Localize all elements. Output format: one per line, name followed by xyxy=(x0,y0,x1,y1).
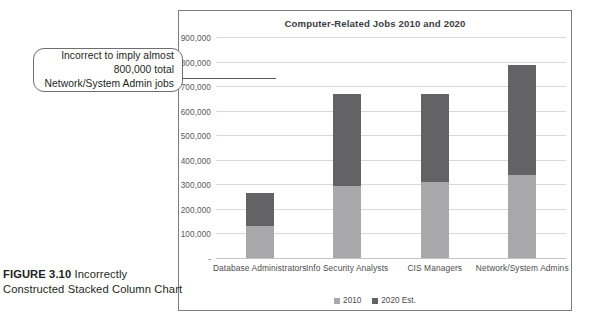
bar-segment-2010 xyxy=(421,182,449,258)
callout-text: Incorrect to imply almost 800,000 total … xyxy=(40,49,174,91)
plot-area: -100,000200,000300,000400,000500,000600,… xyxy=(216,37,566,258)
y-axis-tick-label: 400,000 xyxy=(181,156,211,165)
legend-swatch-icon xyxy=(334,298,340,304)
y-axis-tick-label: 700,000 xyxy=(181,83,211,92)
bar-column xyxy=(508,65,536,258)
y-axis-tick-label: 900,000 xyxy=(181,34,211,43)
gridline: - xyxy=(216,258,566,259)
legend-label: 2020 Est. xyxy=(381,296,416,305)
chart-container: Computer-Related Jobs 2010 and 2020 -100… xyxy=(178,10,572,311)
y-axis-tick-label: 200,000 xyxy=(181,205,211,214)
x-axis-tick-label: CIS Managers xyxy=(385,263,485,275)
legend-item: 2020 Est. xyxy=(372,296,416,305)
y-axis-tick-label: 500,000 xyxy=(181,132,211,141)
bar-column xyxy=(421,94,449,259)
bars-layer xyxy=(216,37,566,258)
bar-segment-2020 xyxy=(246,193,274,225)
figure-caption: FIGURE 3.10 Incorrectly Constructed Stac… xyxy=(3,267,183,298)
bar-segment-2010 xyxy=(508,175,536,258)
y-axis-tick-label: 600,000 xyxy=(181,107,211,116)
x-axis-tick-label: Network/System Admins xyxy=(472,263,572,275)
y-axis-tick-label: 300,000 xyxy=(181,181,211,190)
bar-column xyxy=(333,94,361,259)
bar-segment-2020 xyxy=(333,94,361,187)
chart-legend: 20102020 Est. xyxy=(179,296,571,305)
bar-segment-2020 xyxy=(421,94,449,182)
x-axis-tick-label: Database Administrators xyxy=(210,263,310,275)
legend-swatch-icon xyxy=(372,298,378,304)
figure-number: FIGURE 3.10 xyxy=(3,268,71,280)
callout-leader-line xyxy=(183,78,276,79)
bar-column xyxy=(246,193,274,258)
bar-segment-2020 xyxy=(508,65,536,175)
legend-item: 2010 xyxy=(334,296,361,305)
chart-title: Computer-Related Jobs 2010 and 2020 xyxy=(179,18,571,29)
y-axis-tick-label: 800,000 xyxy=(181,58,211,67)
callout-annotation: Incorrect to imply almost 800,000 total … xyxy=(33,48,183,92)
bar-segment-2010 xyxy=(246,226,274,258)
y-axis-tick-label: 100,000 xyxy=(181,230,211,239)
x-axis-tick-label: Info Security Analysts xyxy=(297,263,397,275)
bar-segment-2010 xyxy=(333,186,361,258)
legend-label: 2010 xyxy=(343,296,361,305)
